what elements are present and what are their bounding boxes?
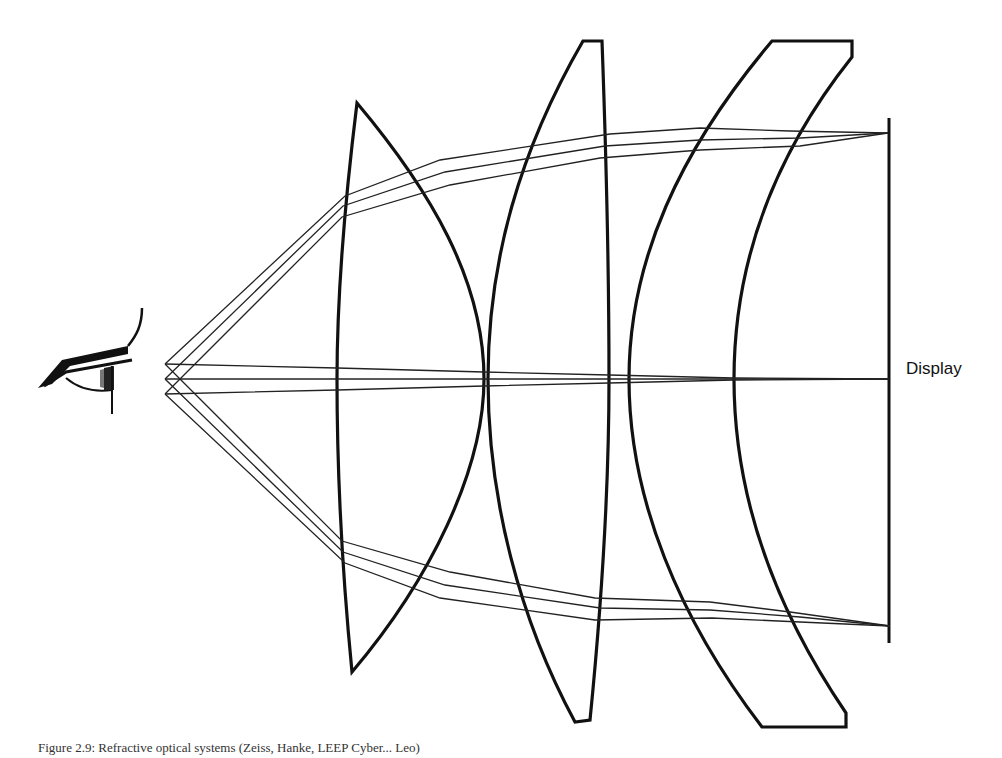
figure-caption: Figure 2.9: Refractive optical systems (… xyxy=(38,740,420,756)
ray-bundle-top xyxy=(165,128,888,394)
display-label: Display xyxy=(906,359,962,379)
ray-bundle-bottom xyxy=(165,364,890,626)
eye-icon xyxy=(38,308,142,414)
ray-bundle-center xyxy=(165,364,889,394)
